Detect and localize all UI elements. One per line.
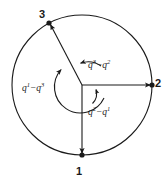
arc-label-q3-minus-q2-sup-right: 2 — [107, 58, 110, 65]
arc-label-q1-minus-q3-sup-right: 3 — [41, 81, 44, 88]
arc-label-q2-minus-q1-sup-right: 1 — [107, 105, 110, 112]
point-marker-2 — [149, 82, 154, 87]
point-label-1: 1 — [76, 166, 82, 177]
radius-vector-to-point-3 — [50, 25, 82, 86]
arc-label-q3-minus-q2: q3−q2 — [88, 61, 110, 71]
arc-q2-minus-q1 — [93, 90, 97, 104]
arc-label-q2-minus-q1: q2−q1 — [88, 108, 110, 118]
point-label-2: 2 — [155, 78, 161, 89]
circle-angle-diagram: 1 2 3 q3−q2 q1−q3 q2−q1 — [0, 0, 166, 181]
point-label-3: 3 — [39, 9, 45, 20]
point-marker-1 — [79, 152, 84, 157]
point-marker-3 — [46, 20, 51, 25]
arc-label-q1-minus-q3: q1−q3 — [22, 84, 44, 94]
